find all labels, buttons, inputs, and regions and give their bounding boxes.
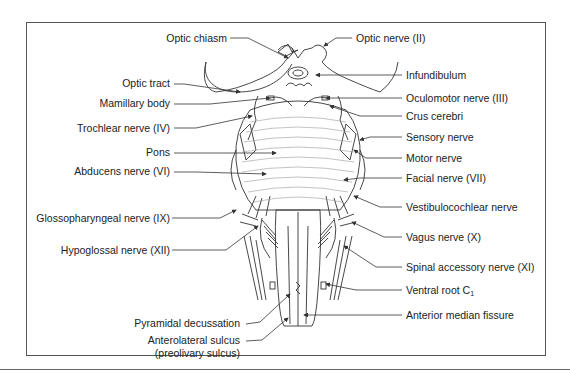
label-trochlear-nerve: Trochlear nerve (IV) [77, 122, 170, 134]
label-oculomotor-nerve: Oculomotor nerve (III) [406, 92, 508, 104]
label-infundibulum: Infundibulum [406, 69, 466, 81]
label-vestibulocochlear-nerve: Vestibulocochlear nerve [406, 201, 518, 213]
label-preolivary-sulcus: (preolivary sulcus) [155, 347, 240, 359]
brainstem-diagram [0, 0, 570, 378]
label-abducens-nerve: Abducens nerve (VI) [74, 165, 170, 177]
label-spinal-accessory-nerve: Spinal accessory nerve (XI) [406, 261, 534, 273]
label-optic-nerve: Optic nerve (II) [356, 32, 425, 44]
label-pons: Pons [146, 146, 170, 158]
ventral-root-subscript: 1 [470, 290, 474, 297]
label-anterolateral-sulcus: Anterolateral sulcus [148, 334, 240, 346]
label-glossopharyngeal-nerve: Glossopharyngeal nerve (IX) [36, 212, 170, 224]
label-hypoglossal-nerve: Hypoglossal nerve (XII) [61, 244, 170, 256]
label-optic-tract: Optic tract [122, 77, 170, 89]
label-mamillary-body: Mamillary body [99, 97, 170, 109]
label-anterior-median-fissure: Anterior median fissure [406, 309, 514, 321]
ventral-root-text: Ventral root C [406, 284, 470, 296]
label-facial-nerve: Facial nerve (VII) [406, 172, 486, 184]
label-crus-cerebri: Crus cerebri [406, 110, 463, 122]
label-vagus-nerve: Vagus nerve (X) [406, 231, 481, 243]
label-ventral-root-c1: Ventral root C1 [406, 284, 474, 300]
label-optic-chiasm: Optic chiasm [166, 32, 227, 44]
label-pyramidal-decussation: Pyramidal decussation [134, 317, 240, 329]
label-sensory-nerve: Sensory nerve [406, 131, 474, 143]
label-motor-nerve: Motor nerve [406, 152, 462, 164]
